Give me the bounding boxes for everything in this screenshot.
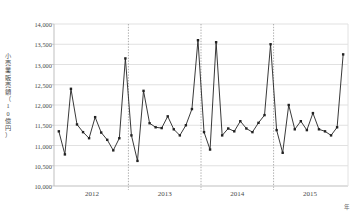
- data-point-marker: [336, 126, 338, 128]
- data-point-marker: [136, 160, 138, 162]
- data-point-marker: [185, 124, 187, 126]
- data-point-marker: [130, 134, 132, 136]
- x-axis-tick-label: 2015: [303, 190, 317, 198]
- data-point-marker: [318, 128, 320, 130]
- data-point-marker: [82, 131, 84, 133]
- data-point-marker: [160, 127, 162, 129]
- data-point-marker: [197, 39, 199, 41]
- vertical-year-separators: [128, 24, 273, 190]
- data-point-marker: [209, 148, 211, 150]
- retail-sales-line-chart: 小売業販売額（10億円） 14,00013,50013,00012,50012,…: [0, 0, 356, 216]
- data-point-marker: [94, 116, 96, 118]
- data-point-marker: [324, 130, 326, 132]
- data-point-marker: [257, 122, 259, 124]
- data-point-marker: [281, 152, 283, 154]
- data-point-marker: [288, 104, 290, 106]
- data-point-marker: [227, 127, 229, 129]
- data-point-marker: [76, 123, 78, 125]
- data-point-marker: [191, 108, 193, 110]
- data-point-marker: [88, 137, 90, 139]
- data-point-marker: [142, 90, 144, 92]
- data-point-marker: [112, 149, 114, 151]
- data-point-marker: [203, 131, 205, 133]
- data-point-marker: [251, 131, 253, 133]
- data-point-marker: [70, 88, 72, 90]
- data-point-marker: [312, 112, 314, 114]
- data-point-marker: [124, 57, 126, 59]
- data-point-marker: [306, 129, 308, 131]
- data-point-marker: [221, 134, 223, 136]
- data-point-marker: [233, 130, 235, 132]
- x-axis-tick-label: 2013: [158, 190, 172, 198]
- data-point-marker: [300, 120, 302, 122]
- data-point-marker: [245, 127, 247, 129]
- x-axis-tick-label: 2012: [85, 190, 99, 198]
- data-point-marker: [275, 129, 277, 131]
- x-axis-tick-label: 2014: [230, 190, 244, 198]
- data-point-marker: [294, 128, 296, 130]
- data-point-marker: [342, 53, 344, 55]
- data-point-marker: [58, 130, 60, 132]
- data-point-marker: [215, 41, 217, 43]
- plot-area: [0, 0, 356, 216]
- x-axis-unit-label: 年: [344, 203, 350, 211]
- data-point-marker: [106, 139, 108, 141]
- data-point-marker: [263, 114, 265, 116]
- data-point-marker: [173, 128, 175, 130]
- data-point-marker: [239, 120, 241, 122]
- data-point-marker: [179, 134, 181, 136]
- data-point-marker: [330, 134, 332, 136]
- data-point-marker: [269, 43, 271, 45]
- data-point-marker: [148, 122, 150, 124]
- data-point-marker: [100, 131, 102, 133]
- data-point-marker: [118, 137, 120, 139]
- data-point-marker: [167, 115, 169, 117]
- data-point-marker: [154, 126, 156, 128]
- horizontal-gridlines: [51, 24, 348, 186]
- data-point-marker: [64, 153, 66, 155]
